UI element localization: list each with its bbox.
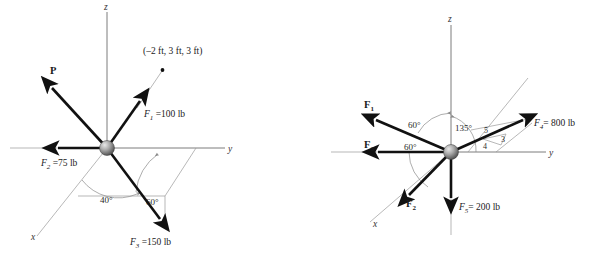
origin-sphere bbox=[444, 145, 459, 160]
position-point-group bbox=[137, 68, 164, 108]
vector-F4-label: F4= 800 lb bbox=[533, 118, 575, 131]
z-axis-label: z bbox=[447, 14, 452, 24]
vector-F2-subscript: 2 bbox=[412, 204, 416, 212]
vector-F3-label: F3 =150 lb bbox=[129, 237, 171, 250]
axis-group-right bbox=[331, 25, 546, 235]
arc-60 bbox=[136, 154, 158, 192]
y-axis-label: y bbox=[548, 148, 554, 158]
vector-F4-value: = 800 lb bbox=[543, 118, 575, 128]
vector-F1-value: =100 lb bbox=[153, 109, 185, 119]
vector-F1-label: F1 bbox=[364, 99, 374, 113]
vector-P-label: P bbox=[50, 65, 57, 76]
vector-F3-value: =150 lb bbox=[139, 237, 171, 247]
vector-F3-label: F3 bbox=[364, 139, 374, 153]
y-axis-label: y bbox=[227, 144, 233, 154]
triangle-label-opp: 3 bbox=[501, 135, 505, 144]
position-leader-line bbox=[137, 71, 162, 108]
force-diagram-right: z y x 5 4 3 60° 135° 60° F1 bbox=[296, 0, 593, 271]
position-coordinates-label: (–2 ft, 3 ft, 3 ft) bbox=[143, 46, 202, 57]
vector-F2-label: F2 bbox=[406, 198, 416, 212]
angle-label-60-upper: 60° bbox=[408, 120, 421, 130]
arc-60-lower bbox=[409, 152, 428, 187]
angle-label-40: 40° bbox=[100, 195, 113, 205]
angle-arcs-left bbox=[82, 154, 158, 198]
triangle-label-adj: 4 bbox=[483, 142, 487, 151]
angle-label-60-lower: 60° bbox=[404, 142, 417, 152]
x-axis-label: x bbox=[372, 219, 378, 229]
vector-F5-label: F5= 200 lb bbox=[458, 202, 500, 215]
triangle-label-hyp: 5 bbox=[484, 126, 488, 135]
angle-label-135: 135° bbox=[455, 123, 473, 133]
position-point-marker bbox=[161, 68, 165, 72]
vector-F1 bbox=[107, 101, 140, 148]
vector-F2-label: F2 =75 lb bbox=[40, 158, 78, 171]
vector-P bbox=[52, 88, 107, 148]
z-axis-label: z bbox=[103, 2, 108, 12]
vector-F1-subscript: 1 bbox=[370, 105, 374, 113]
x-axis-label: x bbox=[30, 232, 36, 242]
origin-sphere bbox=[100, 141, 115, 156]
force-diagram-left: z y x 60° 40° (–2 ft, 3 ft, 3 ft) P bbox=[0, 0, 296, 271]
arc-60-upper bbox=[418, 113, 451, 133]
vector-F3-subscript: 3 bbox=[370, 145, 374, 153]
vector-F2-value: =75 lb bbox=[50, 158, 77, 168]
vector-F1-label: F1 =100 lb bbox=[143, 109, 185, 122]
vector-F5-value: = 200 lb bbox=[468, 202, 500, 212]
